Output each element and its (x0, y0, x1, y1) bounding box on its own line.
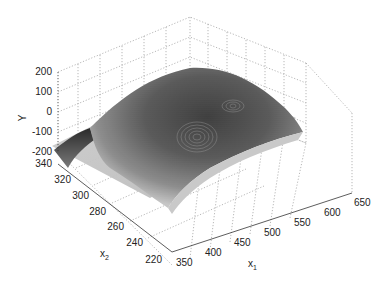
svg-text:340: 340 (35, 158, 52, 169)
svg-text:400: 400 (205, 247, 222, 258)
svg-text:220: 220 (145, 254, 162, 265)
svg-text:260: 260 (107, 221, 124, 232)
svg-text:240: 240 (126, 237, 143, 248)
svg-text:300: 300 (72, 190, 89, 201)
svg-text:200: 200 (35, 66, 52, 77)
svg-text:-200: -200 (32, 146, 52, 157)
z-axis-ticks: 200 100 0 -100 -200 (32, 66, 52, 157)
surface-plot: 200 100 0 -100 -200 Y 340 320 300 280 26… (0, 0, 391, 288)
x1-axis-ticks: 350 400 450 500 550 600 650 (176, 197, 371, 268)
z-axis-label: Y (17, 114, 28, 121)
svg-text:0: 0 (46, 106, 52, 117)
svg-text:-100: -100 (32, 126, 52, 137)
svg-text:100: 100 (35, 86, 52, 97)
svg-text:450: 450 (234, 237, 251, 248)
svg-text:280: 280 (89, 206, 106, 217)
svg-text:350: 350 (176, 257, 193, 268)
svg-text:650: 650 (354, 197, 371, 208)
svg-text:600: 600 (324, 207, 341, 218)
svg-text:320: 320 (54, 174, 71, 185)
svg-text:550: 550 (294, 217, 311, 228)
x2-axis-label: x2 (100, 248, 109, 261)
x1-axis-label: x1 (248, 258, 257, 271)
svg-text:500: 500 (264, 227, 281, 238)
